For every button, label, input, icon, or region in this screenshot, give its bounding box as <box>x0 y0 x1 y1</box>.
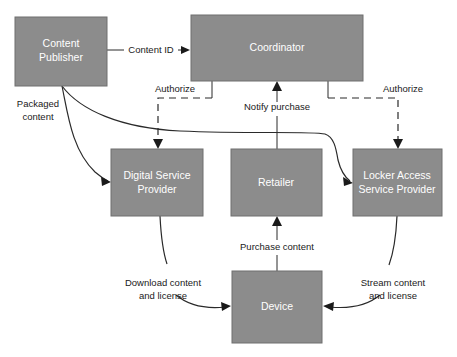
edge-purchase-content: Purchase content <box>240 216 314 271</box>
edge-authorize-left: Authorize <box>153 81 212 149</box>
edge-label-download-content-line2: and license <box>139 290 187 301</box>
node-locker-access-service-provider[interactable]: Locker Access Service Provider <box>353 149 442 216</box>
edge-label-content-id: Content ID <box>128 44 174 55</box>
node-content-publisher[interactable]: Content Publisher <box>15 17 107 86</box>
node-coordinator[interactable]: Coordinator <box>191 15 363 81</box>
edge-label-purchase-content: Purchase content <box>240 241 314 252</box>
node-retailer-label-line1: Retailer <box>258 176 295 188</box>
edge-authorize-left-path <box>158 98 212 145</box>
edge-content-id: Content ID <box>107 44 190 55</box>
node-locker-access-service-provider-label-line1: Locker Access <box>363 169 431 181</box>
node-locker-access-service-provider-label-line2: Service Provider <box>358 183 436 195</box>
node-device-label-line1: Device <box>261 300 293 312</box>
edge-content-id-arrowhead <box>181 46 190 54</box>
edge-notify-purchase: Notify purchase <box>244 81 310 149</box>
edge-label-packaged-content-line1: Packaged <box>17 98 59 109</box>
edge-notify-purchase-arrowhead <box>272 81 282 91</box>
edge-purchase-content-arrowhead <box>272 216 282 226</box>
edge-authorize-right: Authorize <box>328 81 423 149</box>
edge-authorize-right-arrowhead <box>393 139 403 149</box>
node-digital-service-provider-label-line2: Provider <box>137 183 177 195</box>
edge-authorize-right-path <box>328 98 398 145</box>
node-digital-service-provider[interactable]: Digital Service Provider <box>111 149 203 216</box>
edge-download-content-arrowhead <box>221 302 231 311</box>
edge-label-packaged-content-line2: content <box>22 111 54 122</box>
edge-label-download-content-line1: Download content <box>125 277 201 288</box>
edge-authorize-left-arrowhead <box>153 139 163 149</box>
node-digital-service-provider-label-line1: Digital Service <box>123 169 190 181</box>
edge-packaged-content-path <box>62 86 108 181</box>
node-coordinator-label-line1: Coordinator <box>250 41 305 53</box>
edge-label-stream-content-line1: Stream content <box>361 277 426 288</box>
node-content-publisher-label-line2: Publisher <box>39 51 83 63</box>
edge-packaged-content-locker-arrowhead <box>343 177 353 186</box>
node-retailer[interactable]: Retailer <box>231 149 322 216</box>
edge-stream-content-arrowhead <box>323 302 334 311</box>
diagram-svg: Content ID Packaged content Authorize Au… <box>0 0 457 357</box>
edge-stream-content-path-upper <box>389 216 397 265</box>
edge-stream-content: Stream content and license <box>323 216 426 311</box>
node-content-publisher-label-line1: Content <box>43 37 80 49</box>
diagram-canvas: Content ID Packaged content Authorize Au… <box>0 0 457 357</box>
edge-download-content-path-upper <box>160 216 167 264</box>
node-device[interactable]: Device <box>232 271 322 343</box>
edge-label-notify-purchase: Notify purchase <box>244 101 310 112</box>
edge-packaged-content: Packaged content <box>17 86 111 186</box>
edge-label-stream-content-line2: and license <box>369 290 417 301</box>
edge-label-authorize-right: Authorize <box>383 83 423 94</box>
edge-download-content: Download content and license <box>125 216 231 311</box>
edge-label-authorize-left: Authorize <box>155 83 195 94</box>
edge-packaged-content-arrowhead <box>101 177 111 186</box>
